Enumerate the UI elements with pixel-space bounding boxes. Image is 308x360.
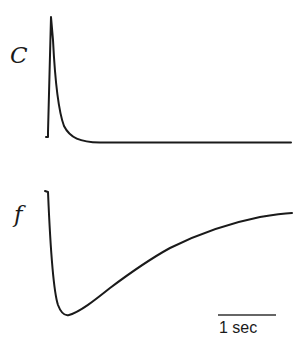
figure: C f 1 sec <box>0 0 308 360</box>
panel-label-f: f <box>14 203 23 226</box>
c-trace-line <box>46 17 291 143</box>
scale-bar-label: 1 sec <box>219 320 257 336</box>
f-trace-line <box>45 191 292 315</box>
plot-canvas <box>0 0 308 360</box>
panel-label-c: C <box>10 44 28 67</box>
